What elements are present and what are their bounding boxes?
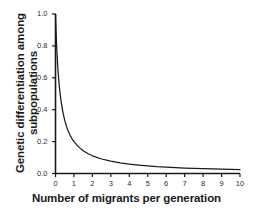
data-series-line (56, 14, 241, 170)
chart-figure: Genetic differentiation among subpopulat… (0, 0, 253, 215)
x-axis-tick-label: 6 (159, 179, 173, 188)
y-axis-tick-label: 1.0 (28, 9, 48, 18)
x-axis-tick-label: 0 (49, 179, 63, 188)
y-axis-tick-label: 0.0 (28, 169, 48, 178)
x-axis-tick-label: 9 (215, 179, 229, 188)
x-axis-tick-label: 10 (233, 179, 247, 188)
x-axis-tick-label: 7 (178, 179, 192, 188)
x-axis-tick-label: 3 (104, 179, 118, 188)
x-axis-tick-label: 4 (122, 179, 136, 188)
y-axis-tick-label: 0.4 (28, 105, 48, 114)
x-axis-tick-label: 5 (141, 179, 155, 188)
y-axis-tick-label: 0.6 (28, 73, 48, 82)
y-axis-tick-label: 0.2 (28, 137, 48, 146)
x-axis-tick-label: 1 (67, 179, 81, 188)
x-axis-tick-label: 2 (85, 179, 99, 188)
y-axis-tick-label: 0.8 (28, 41, 48, 50)
x-axis-tick-label: 8 (196, 179, 210, 188)
